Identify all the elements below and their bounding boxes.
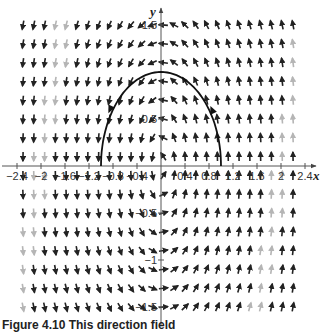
field-arrow bbox=[66, 77, 67, 86]
field-arrow bbox=[249, 227, 250, 236]
field-arrow bbox=[44, 115, 45, 124]
field-arrow bbox=[23, 115, 24, 124]
field-arrow bbox=[238, 77, 240, 86]
field-arrow bbox=[129, 228, 132, 236]
field-arrow bbox=[128, 304, 134, 311]
field-arrow bbox=[97, 40, 100, 49]
field-arrow bbox=[33, 96, 34, 105]
field-arrow bbox=[55, 39, 57, 48]
field-arrow bbox=[206, 115, 208, 124]
field-arrow bbox=[216, 303, 220, 311]
field-arrow bbox=[171, 60, 178, 65]
field-arrow bbox=[98, 209, 99, 218]
field-arrow bbox=[282, 58, 283, 67]
field-arrow bbox=[174, 171, 175, 180]
field-arrow bbox=[98, 115, 99, 124]
field-arrow bbox=[129, 96, 132, 104]
field-arrow bbox=[159, 288, 168, 289]
field-arrow bbox=[239, 190, 240, 199]
field-arrow bbox=[182, 266, 187, 273]
field-arrow bbox=[249, 77, 250, 86]
field-arrow bbox=[65, 265, 67, 274]
x-tick-label: −1.2 bbox=[78, 170, 100, 182]
field-arrow bbox=[77, 133, 78, 142]
x-tick-label: 0.4 bbox=[177, 170, 192, 182]
field-arrow bbox=[141, 152, 142, 161]
field-arrow bbox=[184, 190, 186, 199]
field-arrow bbox=[139, 285, 146, 291]
field-arrow bbox=[227, 265, 229, 274]
field-arrow bbox=[139, 41, 146, 47]
field-arrow bbox=[238, 40, 240, 49]
field-arrow bbox=[65, 21, 67, 30]
field-arrow bbox=[76, 21, 79, 30]
field-arrow bbox=[118, 265, 122, 273]
field-arrow bbox=[119, 77, 122, 85]
field-arrow bbox=[152, 152, 154, 161]
field-arrow bbox=[76, 284, 78, 293]
field-arrow bbox=[128, 22, 134, 29]
field-arrow bbox=[249, 96, 250, 105]
field-arrow bbox=[228, 190, 229, 199]
field-arrow bbox=[148, 42, 156, 45]
field-arrow bbox=[149, 61, 157, 65]
field-arrow bbox=[227, 96, 229, 105]
field-arrow bbox=[55, 115, 56, 124]
field-arrow bbox=[33, 284, 34, 293]
field-arrow bbox=[87, 209, 88, 218]
x-tick-label: 2.4 bbox=[297, 170, 312, 182]
field-arrow bbox=[205, 303, 209, 311]
field-arrow bbox=[206, 227, 208, 236]
field-arrow bbox=[194, 96, 197, 105]
field-arrow bbox=[22, 39, 23, 48]
field-arrow bbox=[293, 96, 294, 105]
field-arrow bbox=[150, 190, 155, 198]
field-arrow bbox=[238, 265, 240, 274]
field-arrow bbox=[216, 40, 219, 48]
field-arrow bbox=[217, 115, 218, 124]
field-arrow bbox=[159, 250, 168, 251]
field-arrow bbox=[293, 246, 294, 255]
field-arrow bbox=[193, 284, 198, 292]
field-arrow bbox=[173, 134, 176, 142]
field-arrow bbox=[249, 39, 251, 48]
field-arrow bbox=[205, 284, 209, 292]
field-arrow bbox=[271, 115, 272, 124]
field-arrow bbox=[238, 21, 241, 30]
field-arrow bbox=[249, 115, 250, 124]
field-arrow bbox=[65, 39, 67, 48]
field-arrow bbox=[170, 305, 178, 309]
field-arrow bbox=[195, 190, 196, 199]
field-arrow bbox=[22, 265, 23, 274]
field-arrow bbox=[130, 190, 131, 199]
field-arrow bbox=[216, 77, 218, 86]
field-arrow bbox=[55, 58, 57, 67]
field-arrow bbox=[174, 152, 175, 161]
field-arrow bbox=[76, 246, 78, 255]
x-tick-label: −2 bbox=[35, 170, 48, 182]
field-arrow bbox=[182, 22, 188, 28]
field-arrow bbox=[86, 303, 89, 312]
field-arrow bbox=[206, 209, 208, 218]
field-arrow bbox=[182, 40, 188, 47]
field-arrow bbox=[87, 58, 89, 67]
field-arrow bbox=[281, 303, 283, 312]
field-arrow bbox=[161, 153, 166, 160]
field-arrow bbox=[205, 246, 208, 255]
field-arrow bbox=[44, 303, 46, 312]
field-arrow bbox=[238, 58, 240, 67]
field-arrow bbox=[150, 134, 155, 142]
field-arrow bbox=[260, 227, 261, 236]
field-arrow bbox=[205, 58, 208, 66]
field-arrow bbox=[282, 115, 283, 124]
field-arrow bbox=[152, 171, 154, 180]
field-arrow bbox=[182, 59, 187, 66]
field-arrow bbox=[182, 304, 188, 310]
field-arrow bbox=[184, 133, 186, 142]
field-arrow bbox=[183, 96, 187, 104]
field-arrow bbox=[118, 303, 123, 311]
field-arrow bbox=[228, 209, 229, 218]
field-arrow bbox=[293, 227, 294, 236]
field-arrow bbox=[87, 227, 88, 236]
field-arrow bbox=[194, 265, 198, 273]
